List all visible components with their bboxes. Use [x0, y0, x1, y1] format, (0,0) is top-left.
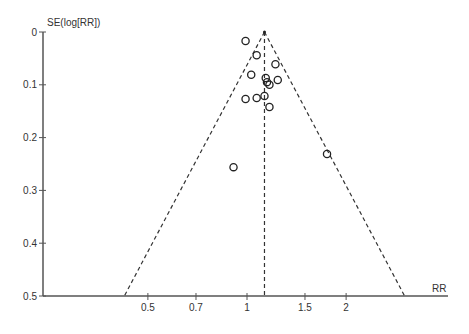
lower-ci-line — [124, 32, 264, 296]
funnel-lines — [124, 31, 404, 297]
y-tick-label: 0.3 — [23, 185, 37, 196]
x-tick-label: 1.5 — [298, 302, 312, 313]
study-point — [323, 150, 330, 157]
y-tick-label: 0.1 — [23, 79, 37, 90]
study-point — [266, 103, 273, 110]
study-point — [242, 95, 249, 102]
x-tick-label: 0.7 — [189, 302, 203, 313]
y-tick-label: 0.5 — [23, 291, 37, 302]
study-point — [230, 164, 237, 171]
y-tick-label: 0.4 — [23, 238, 37, 249]
study-point — [253, 52, 260, 59]
funnel-plot: 00.10.20.30.40.50.50.711.52 SE(log[RR]) … — [0, 0, 469, 334]
x-tick-label: 0.5 — [141, 302, 155, 313]
y-axis-label: SE(log[RR]) — [47, 17, 100, 28]
y-tick-label: 0 — [31, 27, 37, 38]
x-tick-label: 2 — [343, 302, 349, 313]
x-tick-label: 1 — [244, 302, 250, 313]
study-point — [253, 94, 260, 101]
y-tick-label: 0.2 — [23, 132, 37, 143]
x-axis-label: RR — [432, 283, 446, 294]
study-point — [274, 76, 281, 83]
upper-ci-line — [264, 32, 404, 296]
data-points — [230, 37, 331, 170]
study-point — [242, 37, 249, 44]
study-point — [272, 61, 279, 68]
study-point — [248, 71, 255, 78]
